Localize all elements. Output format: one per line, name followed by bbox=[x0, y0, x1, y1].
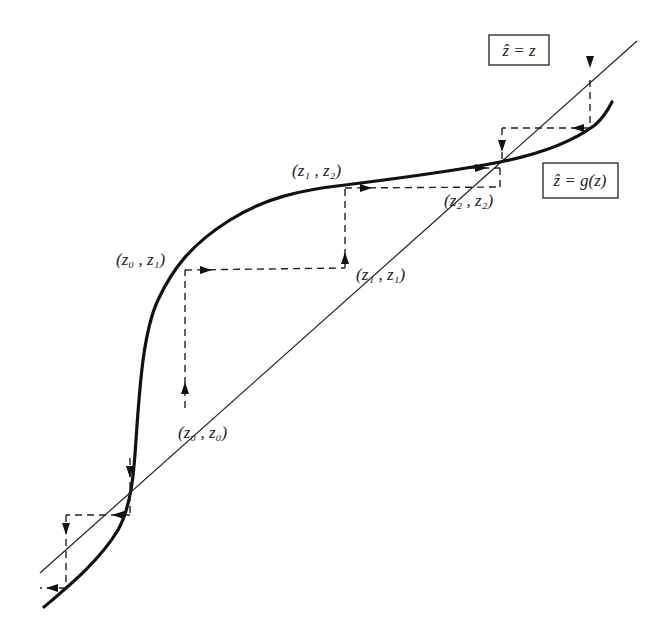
arrow-down-icon bbox=[498, 140, 506, 152]
point-label-z0z0: (z₀ , z₀) bbox=[178, 423, 227, 442]
arrow-up-icon bbox=[181, 382, 189, 394]
arrow-left-icon bbox=[572, 124, 584, 132]
point-label-z0z1: (z₀ , z₁) bbox=[116, 250, 165, 269]
arrow-up-icon bbox=[341, 252, 349, 264]
arrow-left-icon bbox=[112, 511, 124, 519]
point-label-z1z2: (z₁ , z₂) bbox=[292, 161, 341, 180]
arrow-left-icon bbox=[46, 584, 58, 592]
arrow-right-icon bbox=[360, 184, 372, 192]
cobweb-diagram: ẑ = z ẑ = g(z) (z₀ , z₀) (z₀ , z₁) (z₁ ,… bbox=[0, 0, 649, 644]
curve-label: ẑ = g(z) bbox=[552, 171, 606, 190]
arrow-right-icon bbox=[200, 266, 212, 274]
arrow-down-icon bbox=[62, 523, 70, 535]
identity-line-label: ẑ = z bbox=[501, 41, 536, 60]
point-label-z1z1: (z₁ , z₁) bbox=[356, 265, 405, 284]
arrow-down-icon bbox=[586, 56, 594, 68]
point-label-z2z2: (z₂ , z₂) bbox=[444, 191, 493, 210]
